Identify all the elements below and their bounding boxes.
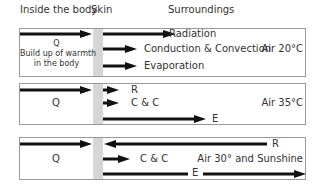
condition-label: Air 35°C	[261, 97, 303, 108]
panel-air-35: Q R C & C E Air 35°C	[19, 83, 306, 125]
evaporation-label: Evaporation	[144, 60, 204, 71]
q-label: Q	[52, 153, 60, 164]
radiation-label: Radiation	[169, 28, 216, 39]
header-surroundings: Surroundings	[168, 4, 234, 15]
convection-label: Conduction & Convection	[144, 43, 271, 54]
radiation-label: R	[272, 138, 279, 149]
panel-air-20: Q Build up of warmth in the body Radiati…	[19, 28, 306, 77]
condition-label: Air 30° and Sunshine	[197, 153, 303, 164]
radiation-label: R	[131, 84, 138, 95]
q-label: Q	[52, 97, 60, 108]
q-label: Q Build up of warmth in the body	[20, 39, 93, 69]
header-inside: Inside the body	[20, 4, 97, 15]
convection-label: C & C	[131, 97, 159, 108]
condition-label: Air 20°C	[261, 43, 303, 54]
convection-label: C & C	[140, 153, 168, 164]
panel-air-30-sunshine: Q R C & C E Air 30° and Sunshine	[19, 137, 306, 180]
evaporation-label: E	[192, 167, 198, 178]
evaporation-label: E	[212, 113, 218, 124]
header-skin: Skin	[91, 4, 112, 15]
